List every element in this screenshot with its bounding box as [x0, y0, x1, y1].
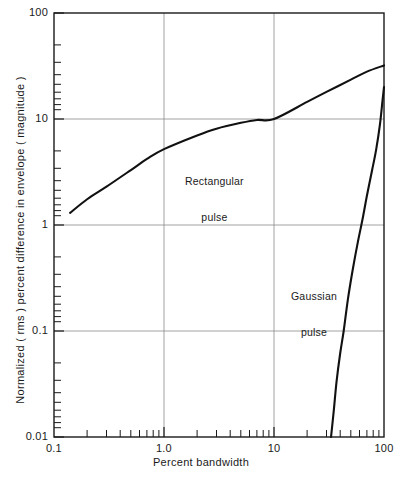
y-tick-label-100: 100	[14, 6, 48, 18]
annotation-gaussian-pulse: Gaussian pulse	[291, 266, 337, 362]
curve-gaussian-pulse	[331, 87, 384, 437]
x-minor-ticks	[87, 430, 379, 437]
annotation-gaussian-line1: Gaussian	[291, 290, 337, 302]
y-axis-title: Normalized ( rms ) percent difference in…	[14, 30, 26, 450]
annotation-rectangular-line2: pulse	[185, 211, 244, 223]
x-tick-label-0.1: 0.1	[34, 442, 74, 454]
annotation-rectangular-line1: Rectangular	[185, 175, 244, 187]
annotation-rectangular-pulse: Rectangular pulse	[185, 151, 244, 247]
x-axis-title: Percent bandwidth	[0, 456, 402, 468]
x-tick-label-100: 100	[364, 442, 402, 454]
x-tick-label-1.0: 1.0	[144, 442, 184, 454]
y-minor-ticks	[54, 45, 61, 428]
x-tick-label-10: 10	[254, 442, 294, 454]
annotation-gaussian-line2: pulse	[291, 326, 337, 338]
chart-figure: 100 10 1 0.1 0.01 0.1 1.0 10 100 Percent…	[0, 0, 402, 482]
